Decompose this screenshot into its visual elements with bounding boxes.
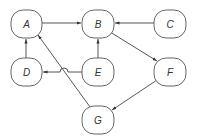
node-e: E: [82, 58, 114, 86]
node-b-label: B: [95, 19, 102, 30]
edge-f-to-g: [112, 80, 157, 110]
node-f-label: F: [167, 67, 174, 78]
node-b: B: [82, 10, 114, 38]
node-d: D: [11, 58, 42, 86]
edge-b-to-f: [110, 32, 157, 61]
node-g: G: [82, 106, 114, 134]
node-a: A: [11, 10, 42, 38]
node-c: C: [154, 10, 186, 38]
node-g-label: G: [94, 115, 102, 126]
directed-graph-diagram: A B C D E F G: [0, 0, 197, 140]
node-d-label: D: [23, 67, 30, 78]
node-a-label: A: [22, 19, 30, 30]
node-e-label: E: [95, 67, 102, 78]
node-c-label: C: [166, 19, 174, 30]
node-f: F: [154, 58, 186, 86]
